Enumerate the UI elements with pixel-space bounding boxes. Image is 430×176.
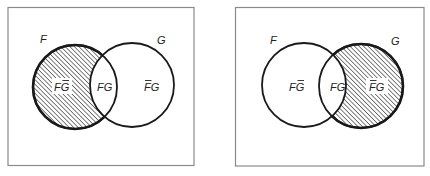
- venn-diagrams: F G FG FG FG F G FG: [0, 0, 430, 176]
- svg-text:FG: FG: [369, 81, 385, 93]
- svg-text:FG: FG: [54, 81, 70, 93]
- right-region-label-f-not-g: FG: [289, 81, 305, 94]
- right-set-label-f: F: [270, 34, 278, 46]
- right-venn-diagram: F G FG FG FG: [215, 0, 430, 176]
- svg-text:FG: FG: [144, 81, 160, 93]
- left-set-label-g: G: [157, 34, 166, 46]
- right-region-label-f-and-g: FG: [330, 81, 346, 93]
- left-region-label-not-f-g: FG: [144, 81, 160, 94]
- right-set-label-g: G: [391, 35, 400, 47]
- left-region-label-f-not-g: FG: [52, 78, 72, 94]
- svg-text:FG: FG: [289, 81, 305, 93]
- right-shaded-region-g-not-f: [215, 0, 430, 176]
- left-set-label-f: F: [40, 33, 48, 45]
- left-venn-diagram: F G FG FG FG: [0, 0, 215, 176]
- right-region-label-not-f-g: FG: [366, 78, 388, 94]
- left-region-label-f-and-g: FG: [97, 81, 113, 93]
